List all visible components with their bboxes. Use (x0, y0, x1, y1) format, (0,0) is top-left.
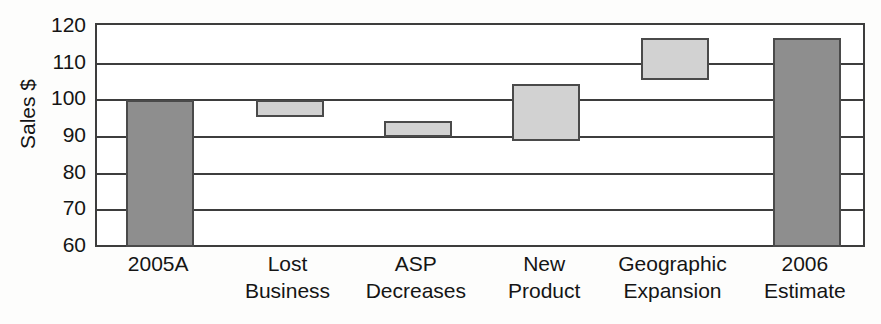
bar-lost-business (256, 100, 324, 117)
x-tick-label-2006-estimate: 2006 Estimate (741, 251, 869, 305)
waterfall-chart: Sales $ 12011010090807060 2005ALost Busi… (0, 0, 881, 324)
gridline-70 (97, 209, 863, 211)
gridline-80 (97, 173, 863, 175)
bar-2005a (126, 100, 194, 247)
gridline-90 (97, 136, 863, 138)
x-tick-label-2005a: 2005A (94, 251, 222, 278)
y-tick-label-120: 120 (30, 14, 86, 35)
x-tick-label-asp-decreases: ASP Decreases (352, 251, 480, 305)
bar-new-product (512, 84, 580, 141)
bar-geographic-expansion (641, 38, 709, 80)
gridline-100 (97, 99, 863, 101)
gridline-110 (97, 63, 863, 65)
x-tick-label-geographic-expansion: Geographic Expansion (608, 251, 736, 305)
x-tick-label-lost-business: Lost Business (223, 251, 351, 305)
y-tick-label-90: 90 (30, 124, 86, 145)
y-axis-tick-labels: 12011010090807060 (24, 0, 86, 324)
y-tick-label-110: 110 (30, 51, 86, 72)
y-tick-label-70: 70 (30, 197, 86, 218)
y-tick-label-80: 80 (30, 161, 86, 182)
y-tick-label-100: 100 (30, 87, 86, 108)
x-axis-tick-labels: 2005ALost BusinessASP DecreasesNew Produ… (95, 251, 865, 321)
plot-area (95, 23, 865, 247)
bar-asp-decreases (384, 121, 452, 138)
bar-2006-estimate (773, 38, 841, 247)
x-tick-label-new-product: New Product (480, 251, 608, 305)
y-tick-label-60: 60 (30, 234, 86, 255)
